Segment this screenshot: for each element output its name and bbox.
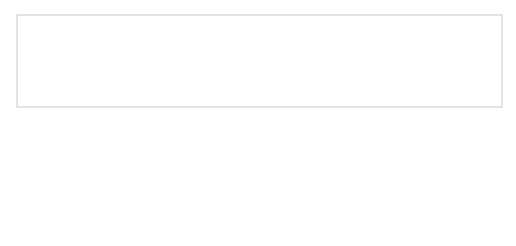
figure-outer-box [18,16,503,108]
figure-frame-stroke [18,16,503,108]
figure-frame-outline [18,16,503,108]
frame-border [17,15,502,107]
figure-panel [18,16,503,108]
figure-outer-outline [18,16,503,108]
diagram-frame [18,16,503,108]
figure-bounds [18,16,503,108]
real-frame [18,16,503,108]
figure-container [18,16,503,108]
figure-border-visible [18,16,503,108]
figure-frame-visible [18,16,503,108]
panel-border [18,16,502,107]
frame-rect-visible [18,16,503,108]
outer-border [18,16,503,108]
diagram-border [18,16,502,107]
frame-visible [18,16,503,108]
figure-outer-border [18,16,503,108]
frame-outline-visible [18,16,503,108]
figure-outer-panel [18,16,503,108]
figure-outer-frame [18,16,503,108]
outer-frame [18,16,502,107]
figure-outer-rect [18,16,503,108]
figure-area [18,16,503,108]
figure-frame-rect [18,16,503,108]
border-outline [18,16,503,108]
figure-frame [17,15,502,107]
figure-border [17,15,502,108]
figure-region [18,16,503,108]
figure-outer-area [18,16,503,108]
frame-visible-outline [18,16,503,108]
diagram-frame-visible [18,16,503,108]
border-frame [18,16,503,108]
outline [18,16,503,108]
figure-outer-region [18,16,503,108]
figure-frame-border [17,15,502,107]
frame [18,16,503,108]
figure-outline [18,16,503,108]
figure-frame-full [17,15,502,107]
figure-rect [18,16,503,108]
module-graph-diagram [0,0,516,246]
figure-frame-main [18,16,503,108]
figure-box [18,16,503,108]
figure-frame-box [18,16,503,108]
figure-outer-bounds [18,16,503,108]
page-frame [18,16,503,108]
